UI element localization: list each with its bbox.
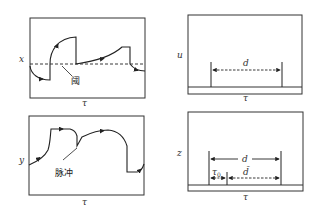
x-panel-tau-label: τ <box>82 98 88 108</box>
x-signal-curve <box>30 37 145 80</box>
z-panel: d τ0 d̄ z τ <box>176 112 303 202</box>
u-panel: d u τ <box>177 15 302 103</box>
z-axis-label: z <box>176 148 182 158</box>
y-axis-label: y <box>18 155 25 165</box>
y-panel: y 脉冲 τ <box>18 116 144 207</box>
d-label: d <box>242 154 248 164</box>
u-axis-label: u <box>177 50 183 60</box>
x-panel-frame <box>30 18 145 98</box>
z-panel-frame <box>188 112 303 191</box>
x-axis-label: x <box>19 54 24 64</box>
tau0-label: τ0 <box>212 167 221 178</box>
diagram-canvas: x 阈 τ y 脉冲 τ d u τ d τ0 <box>0 0 321 212</box>
pulse-pointer-line <box>63 148 77 160</box>
dbar-label: d̄ <box>243 166 250 177</box>
d-label: d <box>243 58 249 68</box>
u-panel-frame <box>188 15 302 94</box>
threshold-pointer-line <box>62 66 72 76</box>
z-panel-tau-label: τ <box>243 192 249 202</box>
x-panel: x 阈 τ <box>19 18 145 108</box>
pulse-label: 脉冲 <box>55 167 73 178</box>
arrow-icon <box>101 58 104 59</box>
y-signal-curve <box>29 129 144 172</box>
threshold-label: 阈 <box>71 75 80 86</box>
y-panel-tau-label: τ <box>82 197 88 207</box>
